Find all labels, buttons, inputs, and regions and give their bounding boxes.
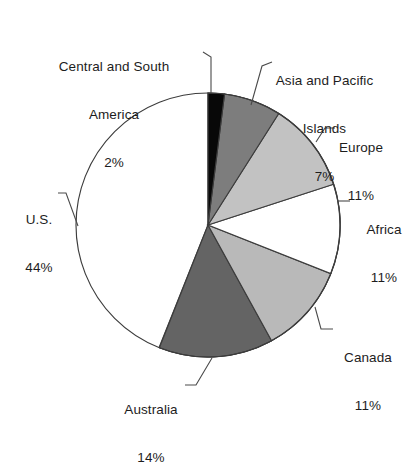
slice-value-us: 44%	[12, 260, 66, 276]
slice-label-line2: America	[24, 107, 204, 123]
slice-label-line1: Asia and Pacific	[257, 73, 392, 89]
slice-label-africa: Africa 11%	[356, 190, 412, 318]
slice-label-us: U.S. 44%	[12, 180, 66, 308]
slice-label-line1: U.S.	[12, 212, 66, 228]
slice-label-line1: Canada	[328, 350, 408, 366]
slice-label-canada: Canada 11%	[328, 318, 408, 446]
slice-value-central-and-south-america: 2%	[24, 155, 204, 171]
slice-label-line1: Europe	[318, 140, 404, 156]
slice-label-line1: Australia	[108, 402, 194, 418]
slice-label-line1: Central and South	[24, 59, 204, 75]
slice-label-line1: Africa	[356, 222, 412, 238]
slice-value-australia: 14%	[108, 450, 194, 466]
slice-value-africa: 11%	[356, 270, 412, 286]
slice-label-australia: Australia 14%	[108, 370, 194, 466]
slice-label-central-and-south-america: Central and South America 2%	[24, 27, 204, 203]
slice-value-canada: 11%	[328, 398, 408, 414]
leader-line-central-and-south-america	[203, 52, 211, 93]
